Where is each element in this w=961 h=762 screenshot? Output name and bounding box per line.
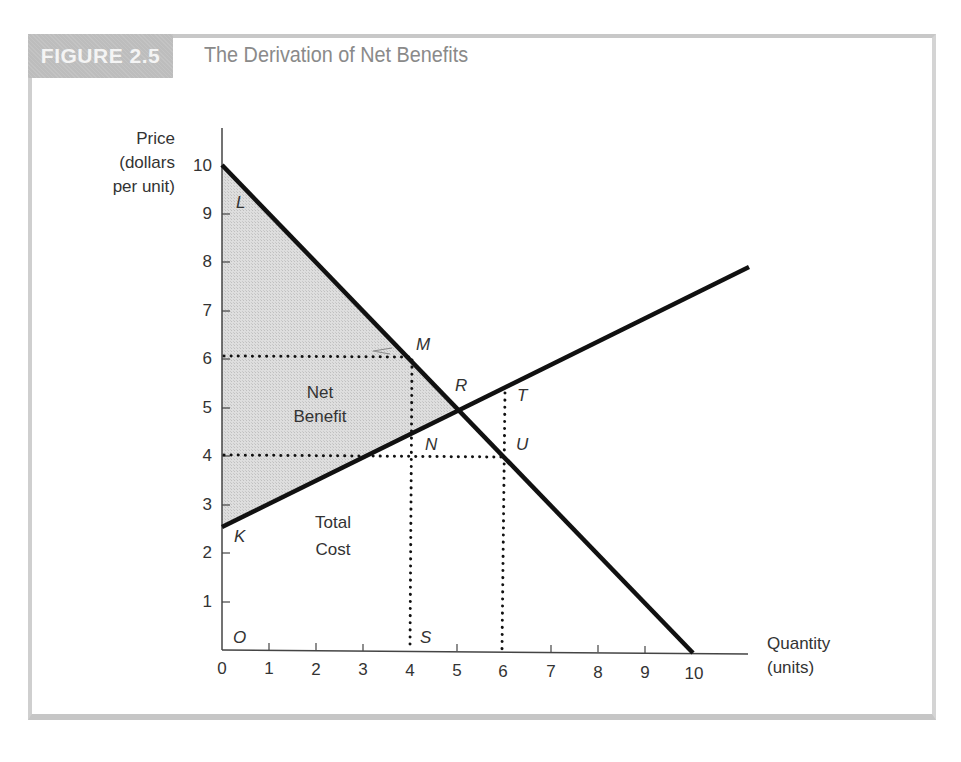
x-tick-10: 10 (685, 664, 704, 683)
guide-qty-6 (502, 393, 505, 651)
point-label-U: U (516, 435, 529, 454)
point-label-T: T (517, 386, 529, 405)
x-tick-8: 8 (593, 663, 602, 682)
point-label-O: O (233, 628, 246, 647)
y-tick-7: 7 (203, 301, 212, 320)
svg-text:Quantity: Quantity (767, 634, 831, 653)
x-tick-labels: 0 1 2 3 4 5 6 7 8 9 10 (217, 659, 703, 683)
y-tick-10: 10 (193, 156, 212, 175)
point-label-R: R (455, 376, 467, 395)
x-tick-3: 3 (358, 660, 367, 679)
point-label-L: L (236, 193, 245, 212)
svg-text:Benefit: Benefit (294, 407, 347, 426)
x-tick-5: 5 (452, 661, 461, 680)
y-tick-9: 9 (203, 204, 212, 223)
x-tick-7: 7 (546, 662, 555, 681)
svg-text:(dollars: (dollars (119, 153, 175, 172)
chart-plot: 1 2 3 4 5 6 7 8 9 10 0 1 2 3 4 5 6 7 8 9… (0, 0, 961, 762)
x-tick-0: 0 (217, 659, 226, 678)
point-label-M: M (416, 335, 431, 354)
point-label-N: N (425, 435, 438, 454)
svg-text:Total: Total (315, 513, 351, 532)
svg-text:Cost: Cost (316, 540, 351, 559)
total-cost-label: Total Cost (315, 513, 351, 559)
x-axis-title: Quantity (units) (767, 634, 831, 677)
svg-text:Price: Price (136, 129, 175, 148)
y-tick-8: 8 (203, 252, 212, 271)
svg-text:per unit): per unit) (113, 177, 175, 196)
y-tick-labels: 1 2 3 4 5 6 7 8 9 10 (193, 156, 212, 611)
svg-text:(units): (units) (767, 658, 814, 677)
y-tick-2: 2 (203, 543, 212, 562)
point-label-S: S (420, 628, 432, 647)
x-tick-9: 9 (640, 663, 649, 682)
y-tick-5: 5 (203, 398, 212, 417)
x-tick-2: 2 (311, 660, 320, 679)
x-tick-1: 1 (264, 659, 273, 678)
x-tick-4: 4 (405, 661, 414, 680)
y-tick-1: 1 (203, 592, 212, 611)
x-tick-6: 6 (498, 662, 507, 681)
y-axis-title: Price (dollars per unit) (113, 129, 175, 196)
svg-text:Net: Net (307, 383, 334, 402)
y-tick-6: 6 (203, 349, 212, 368)
x-axis (222, 650, 748, 654)
y-tick-3: 3 (203, 495, 212, 514)
point-label-K: K (234, 527, 246, 546)
y-tick-4: 4 (203, 446, 212, 465)
